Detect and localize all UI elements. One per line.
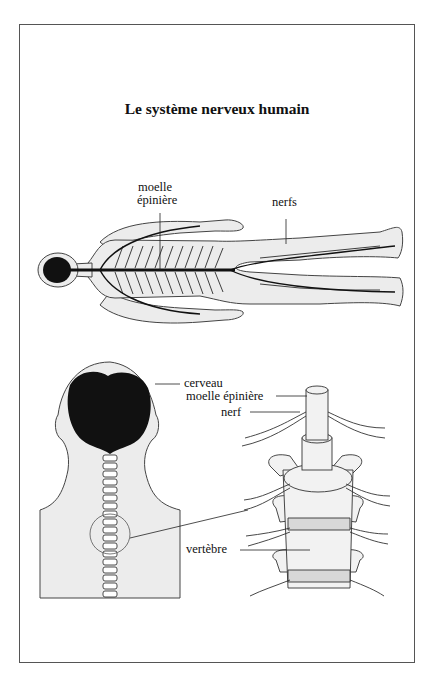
label-nerves: nerfs [272,196,297,209]
label-spinal-cord-line2: épinière [137,194,177,207]
label-nerve: nerf [221,406,241,419]
label-vertebra: vertèbre [186,543,227,556]
illustrations [0,0,434,683]
brain-silhouette [43,257,71,283]
label-spinal-cord: moelle épinière [186,390,263,403]
